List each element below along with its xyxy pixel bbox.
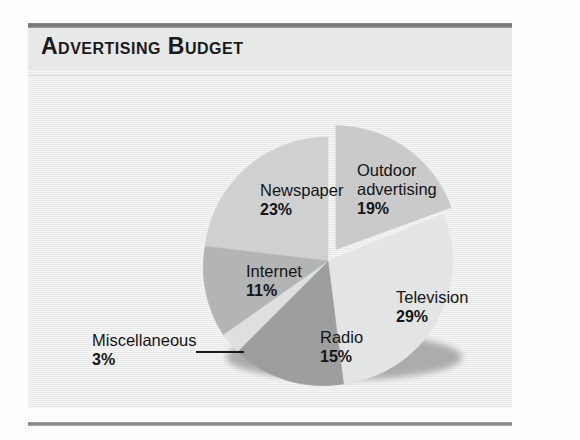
slice-label-outdoor-name-line1: Outdoor bbox=[357, 161, 437, 180]
slice-label-internet: Internet 11% bbox=[246, 262, 302, 300]
cut-off-text-above bbox=[40, 0, 500, 2]
slice-label-miscellaneous: Miscellaneous 3% bbox=[92, 331, 197, 369]
slice-label-miscellaneous-name: Miscellaneous bbox=[92, 331, 197, 350]
figure-bottom-rule bbox=[28, 422, 512, 426]
slice-value-outdoor-advertising: 19% bbox=[357, 199, 437, 218]
slice-label-newspaper-name: Newspaper bbox=[260, 181, 343, 200]
figure-panel: Advertising Budget bbox=[28, 23, 512, 408]
slice-value-radio: 15% bbox=[320, 347, 363, 366]
slice-label-outdoor-advertising: Outdoor advertising 19% bbox=[357, 161, 437, 218]
page-title: Advertising Budget bbox=[41, 33, 243, 60]
pie-chart: Outdoor advertising 19% Newspaper 23% In… bbox=[28, 76, 512, 408]
slice-label-radio-name: Radio bbox=[320, 328, 363, 347]
slice-label-television: Television 29% bbox=[396, 288, 468, 326]
slice-label-radio: Radio 15% bbox=[320, 328, 363, 366]
slice-value-internet: 11% bbox=[246, 281, 302, 300]
slice-label-outdoor-name-line2: advertising bbox=[357, 180, 437, 199]
slice-label-newspaper: Newspaper 23% bbox=[260, 181, 343, 219]
slice-value-television: 29% bbox=[396, 307, 468, 326]
slice-label-internet-name: Internet bbox=[246, 262, 302, 281]
misc-leader-line bbox=[196, 351, 244, 353]
slice-value-newspaper: 23% bbox=[260, 200, 343, 219]
slice-label-television-name: Television bbox=[396, 288, 468, 307]
slice-value-miscellaneous: 3% bbox=[92, 350, 197, 369]
